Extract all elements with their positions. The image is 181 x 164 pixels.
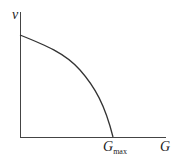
gmax-main: G [103, 139, 113, 154]
gmax-sub: max [113, 147, 127, 156]
curve-v-vs-g [20, 35, 113, 137]
y-axis-label: v [12, 8, 18, 22]
x-axis-label: G [160, 140, 170, 154]
chart-canvas [0, 0, 181, 164]
gmax-tick-label: Gmax [103, 140, 127, 156]
